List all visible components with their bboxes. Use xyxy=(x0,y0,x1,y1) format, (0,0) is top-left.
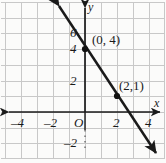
coordinate-plane-graph: 6 4 2 –2 –4 –2 2 4 O y x (0, 4) (2,1) xyxy=(0,0,166,163)
origin-label: O xyxy=(74,116,83,129)
y-tick-label-4: 4 xyxy=(70,42,77,55)
x-axis-label: x xyxy=(154,97,159,109)
data-point-2-1 xyxy=(114,93,120,99)
y-tick-label-6: 6 xyxy=(70,26,77,39)
data-point-0-4 xyxy=(82,46,88,52)
y-axis-label: y xyxy=(88,1,93,13)
x-tick-label-2: 2 xyxy=(113,116,120,129)
y-tick-label-2: 2 xyxy=(70,74,77,87)
point-label-second: (2,1) xyxy=(119,79,144,92)
x-tick-label-neg2: –2 xyxy=(44,116,57,129)
x-tick-label-4: 4 xyxy=(145,116,152,129)
x-tick-label-neg4: –4 xyxy=(11,116,24,129)
y-tick-label-neg2: –2 xyxy=(64,136,77,149)
point-label-y-intercept: (0, 4) xyxy=(92,33,120,46)
